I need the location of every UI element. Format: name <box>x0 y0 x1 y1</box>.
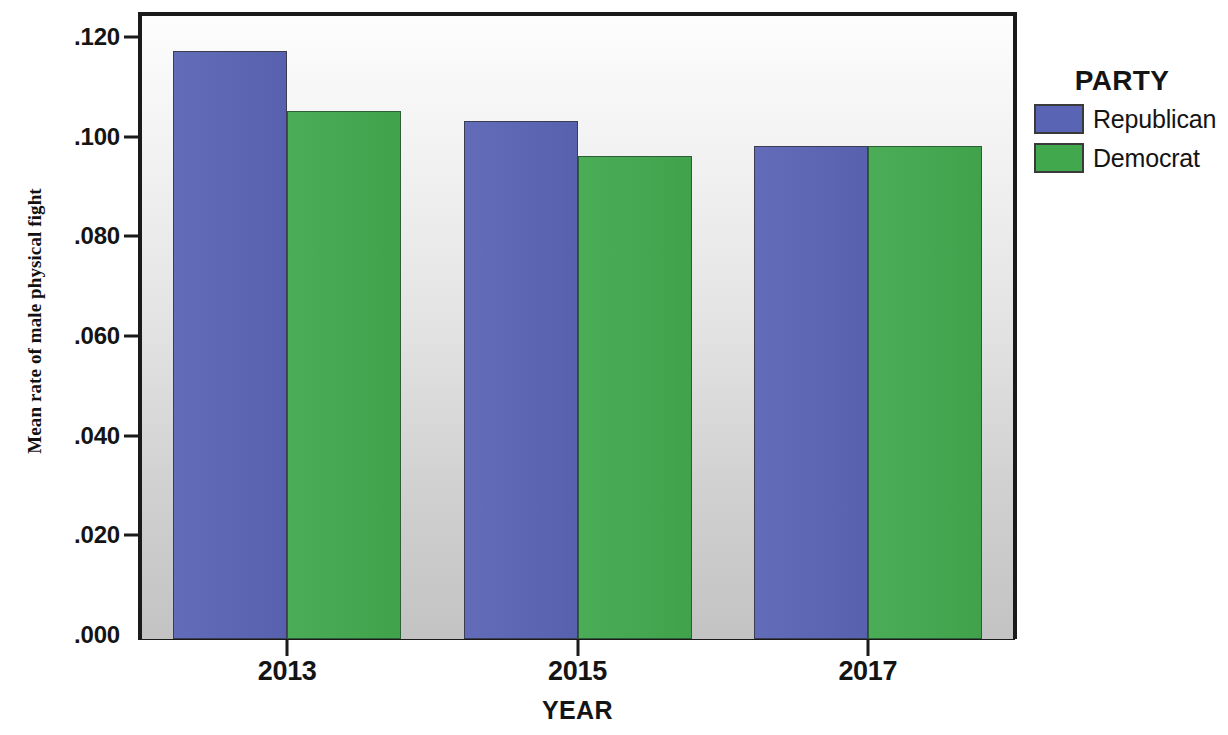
x-axis-tick-label: 2013 <box>207 656 367 687</box>
legend-item-label: Democrat <box>1093 144 1200 173</box>
y-axis-tick-mark <box>124 334 138 337</box>
legend-item-republican: Republican <box>1034 104 1224 134</box>
plot-area <box>142 16 1013 639</box>
y-axis-tick-mark <box>124 135 138 138</box>
y-axis-tick-label: .100 <box>26 123 120 151</box>
x-axis-tick-mark <box>866 640 869 656</box>
x-axis-tick-mark <box>286 640 289 656</box>
x-axis-title: YEAR <box>142 696 1013 725</box>
legend-swatch-icon <box>1034 104 1084 134</box>
y-axis-tick-label: .040 <box>26 422 120 450</box>
x-axis-tick-label: 2015 <box>498 656 658 687</box>
y-axis-tick-labels: .000.020.040.060.080.100.120 <box>26 0 120 735</box>
bar-republican-2017 <box>754 146 868 639</box>
legend-item-label: Republican <box>1093 105 1216 134</box>
legend-swatch-icon <box>1034 143 1084 173</box>
x-axis-tick-mark <box>576 640 579 656</box>
y-axis-tick-label: .120 <box>26 23 120 51</box>
x-axis-tick-label: 2017 <box>788 656 948 687</box>
y-axis-tick-mark <box>124 534 138 537</box>
legend-item-democrat: Democrat <box>1034 143 1224 173</box>
bar-republican-2015 <box>464 121 578 639</box>
legend-title: PARTY <box>1038 66 1206 95</box>
plot-frame <box>142 12 1017 639</box>
y-axis-tick-label: .080 <box>26 222 120 250</box>
bar-democrat-2015 <box>578 156 692 639</box>
bar-chart: Mean rate of male physical fight .000.02… <box>0 0 1228 735</box>
y-axis-tick-mark <box>124 235 138 238</box>
bar-democrat-2017 <box>868 146 982 639</box>
bar-democrat-2013 <box>287 111 401 639</box>
y-axis-tick-mark <box>124 434 138 437</box>
y-axis-tick-label: .060 <box>26 322 120 350</box>
legend: PARTY RepublicanDemocrat <box>1034 66 1224 173</box>
y-axis-tick-mark <box>124 35 138 38</box>
y-axis-tick-label: .000 <box>26 621 120 649</box>
bar-republican-2013 <box>173 51 287 639</box>
y-axis-tick-label: .020 <box>26 521 120 549</box>
legend-entries: RepublicanDemocrat <box>1034 104 1224 173</box>
